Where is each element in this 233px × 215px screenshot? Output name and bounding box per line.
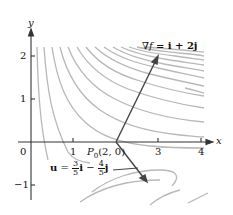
y-tick-1: 1 xyxy=(20,93,26,104)
gradient-contour-diagram: y x 0 1 3 4 2 1 −1 P0(2, 0) ∇f = i + 2j … xyxy=(0,0,233,215)
point-label: P0(2, 0) xyxy=(87,146,125,160)
x-tick-3: 3 xyxy=(155,146,161,157)
x-tick-1: 1 xyxy=(70,146,76,157)
x-tick-4: 4 xyxy=(198,146,204,157)
y-axis-label: y xyxy=(28,17,34,28)
y-tick-2: 2 xyxy=(20,50,26,61)
unit-vector-label: u = 35i − 45j xyxy=(50,160,108,177)
fraction-4-5: 45 xyxy=(98,160,105,177)
gradient-label: ∇f = i + 2j xyxy=(142,40,197,51)
x-tick-0: 0 xyxy=(20,146,26,157)
plot-canvas xyxy=(0,0,233,215)
x-axis-label: x xyxy=(216,135,222,146)
level-curves xyxy=(37,47,208,205)
y-tick-neg1: −1 xyxy=(14,179,29,190)
